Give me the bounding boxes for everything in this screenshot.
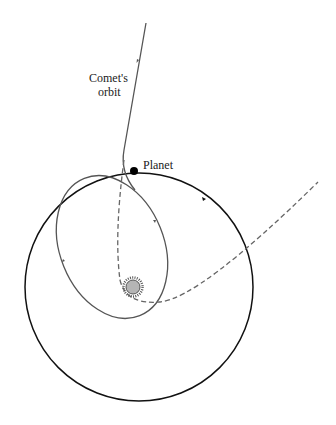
- comet-orbit-label-line1: Comet's: [89, 71, 128, 85]
- ellipse-arrow-icon: [153, 220, 156, 223]
- comet-dashed-path: [118, 160, 318, 302]
- comet-orbit-label-line2: orbit: [98, 85, 121, 99]
- planet-orbit-arrow-icon: [202, 197, 206, 201]
- comet-elliptical-orbit: [36, 159, 188, 335]
- ellipse-arrow-icon: [62, 259, 65, 262]
- orbit-diagram: Comet's orbit Planet: [0, 0, 336, 425]
- sun-icon: [124, 278, 143, 297]
- planet-dot: [130, 167, 138, 175]
- planet-label: Planet: [143, 158, 174, 172]
